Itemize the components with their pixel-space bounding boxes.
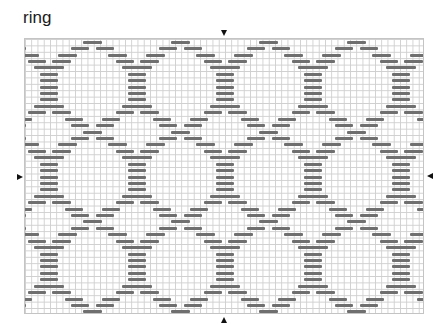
stitch-bar	[96, 124, 114, 127]
stitch-bar	[216, 272, 234, 275]
stitch-bar	[404, 201, 423, 204]
stitch-bar	[140, 150, 159, 153]
stitch-bar	[366, 118, 384, 121]
stitch-bar	[304, 163, 322, 166]
stitch-bar	[316, 240, 335, 243]
stitch-bar	[386, 246, 416, 249]
stitch-bar	[216, 98, 234, 101]
stitch-bar	[392, 278, 410, 281]
stitch-bar	[102, 118, 120, 121]
stitch-bar	[28, 201, 46, 204]
stitch-bar	[380, 150, 398, 153]
stitch-bar	[52, 240, 71, 243]
stitch-bar	[24, 214, 26, 217]
stitch-bar	[71, 304, 89, 307]
stitch-bar	[40, 259, 58, 262]
stitch-bar	[122, 105, 152, 108]
stitch-bar	[366, 208, 384, 211]
stitch-bar	[278, 298, 296, 301]
stitch-bar	[304, 259, 322, 262]
stitch-bar	[24, 124, 26, 127]
stitch-bar	[40, 163, 58, 166]
stitch-bar	[272, 304, 290, 307]
stitch-bar	[372, 143, 391, 146]
stitch-bar	[116, 201, 134, 204]
stitch-bar	[24, 304, 26, 307]
stitch-bar	[347, 220, 366, 223]
stitch-bar	[116, 111, 134, 114]
stitch-bar	[34, 195, 64, 198]
stitch-bar	[316, 201, 335, 204]
stitch-bar	[128, 265, 146, 268]
stitch-bar	[140, 111, 159, 114]
stitch-bar	[404, 240, 423, 243]
stitch-bar	[272, 124, 290, 127]
stitch-bar	[52, 111, 71, 114]
stitch-bar	[316, 291, 335, 294]
stitch-bar	[386, 195, 416, 198]
stitch-bar	[190, 208, 208, 211]
stitch-bar	[216, 86, 234, 89]
stitch-bar	[304, 79, 322, 82]
stitch-bar	[259, 41, 278, 44]
stitch-bar	[128, 272, 146, 275]
stitch-bar	[284, 233, 303, 236]
stitch-bar	[392, 169, 410, 172]
stitch-bar	[40, 169, 58, 172]
stitch-bar	[28, 111, 46, 114]
stitch-bar	[204, 291, 222, 294]
stitch-bar	[392, 92, 410, 95]
stitch-bar	[153, 208, 171, 211]
stitch-bar	[24, 298, 32, 301]
stitch-bar	[171, 310, 190, 313]
stitch-bar	[71, 137, 89, 140]
stitch-bar	[184, 124, 202, 127]
stitch-bar	[40, 176, 58, 179]
stitch-bar	[329, 298, 347, 301]
stitch-bar	[417, 118, 424, 121]
stitch-bar	[392, 176, 410, 179]
stitch-bar	[210, 285, 240, 288]
stitch-bar	[292, 150, 310, 153]
stitch-bar	[392, 272, 410, 275]
stitch-bar	[247, 214, 265, 217]
stitch-bar	[216, 79, 234, 82]
stitch-bar	[259, 220, 278, 223]
stitch-bar	[216, 92, 234, 95]
stitch-bar	[102, 208, 120, 211]
stitch-bar	[404, 150, 423, 153]
stitch-bar	[304, 272, 322, 275]
stitch-bar	[153, 298, 171, 301]
stitch-bar	[128, 259, 146, 262]
stitch-bar	[83, 310, 102, 313]
stitch-bar	[196, 233, 215, 236]
stitch-bar	[102, 298, 120, 301]
stitch-bar	[40, 272, 58, 275]
stitch-bar	[228, 150, 247, 153]
stitch-bar	[128, 176, 146, 179]
stitch-bar	[278, 118, 296, 121]
stitch-bar	[216, 278, 234, 281]
pattern-title: ring	[23, 8, 51, 28]
stitch-bar	[40, 265, 58, 268]
stitch-bar	[210, 105, 240, 108]
stitch-bar	[216, 253, 234, 256]
stitch-bar	[216, 265, 234, 268]
stitch-bar	[40, 253, 58, 256]
stitch-bar	[304, 265, 322, 268]
stitch-bar	[159, 47, 177, 50]
stitch-bar	[159, 227, 177, 230]
stitch-bar	[292, 201, 310, 204]
stitch-bar	[247, 47, 265, 50]
stitch-bar	[298, 195, 328, 198]
stitch-bar	[40, 182, 58, 185]
stitch-bar	[184, 137, 202, 140]
stitch-bar	[329, 118, 347, 121]
stitch-bar	[171, 41, 190, 44]
stitch-bar	[335, 124, 353, 127]
stitch-bar	[392, 253, 410, 256]
stitch-bar	[234, 143, 253, 146]
stitch-bar	[40, 278, 58, 281]
stitch-bar	[184, 304, 202, 307]
stitch-bar	[210, 156, 240, 159]
